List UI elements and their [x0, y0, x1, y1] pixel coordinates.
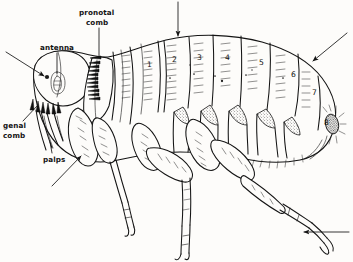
- flea-diagram-canvas: antenna pronotal comb genal comb palps 1…: [0, 0, 353, 262]
- segment-number-7: 7: [312, 88, 317, 97]
- label-antenna-line-1: antenna: [40, 43, 74, 52]
- segment-number-5: 5: [259, 58, 264, 67]
- label-pronotal-comb-line-1: pronotal: [79, 8, 114, 17]
- label-genal-comb-line-2: comb: [3, 131, 25, 140]
- segment-number-4: 4: [225, 53, 230, 62]
- label-pronotal-comb-line-2: comb: [86, 18, 108, 27]
- eye: [45, 75, 49, 79]
- label-palps-line-1: palps: [43, 155, 65, 164]
- segment-number-8: 8: [324, 118, 329, 127]
- segment-number-6: 6: [291, 70, 296, 79]
- segment-number-1: 1: [147, 60, 152, 69]
- flea-anatomy-figure: antenna pronotal comb genal comb palps 1…: [0, 0, 353, 262]
- segment-number-2: 2: [172, 55, 177, 64]
- label-genal-comb-line-1: genal: [3, 121, 26, 130]
- segment-number-3: 3: [197, 53, 202, 62]
